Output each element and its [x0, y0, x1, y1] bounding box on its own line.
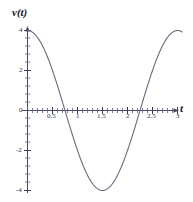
- x-tick-label-2-5: 2.5: [147, 113, 156, 120]
- x-tick-label-3: 3: [176, 113, 180, 120]
- velocity-time-chart: v(t) t 0.5 1 1.5 2 2.5 3 4 2 0 -2 -4: [0, 0, 193, 202]
- x-tick-label-1-5: 1.5: [97, 113, 106, 120]
- y-tick-label-2: 2: [19, 67, 23, 74]
- y-tick-label-minus-2: -2: [16, 147, 22, 154]
- x-tick-label-0-5: 0.5: [47, 113, 56, 120]
- chart-canvas: [0, 0, 193, 202]
- y-axis-title: v(t): [12, 7, 27, 18]
- x-tick-label-2: 2: [126, 113, 130, 120]
- y-tick-label-0: 0: [19, 107, 23, 114]
- x-tick-label-1: 1: [76, 113, 80, 120]
- y-tick-label-minus-4: -4: [16, 187, 22, 194]
- y-tick-label-4: 4: [19, 27, 23, 34]
- x-axis-title: t: [180, 103, 183, 114]
